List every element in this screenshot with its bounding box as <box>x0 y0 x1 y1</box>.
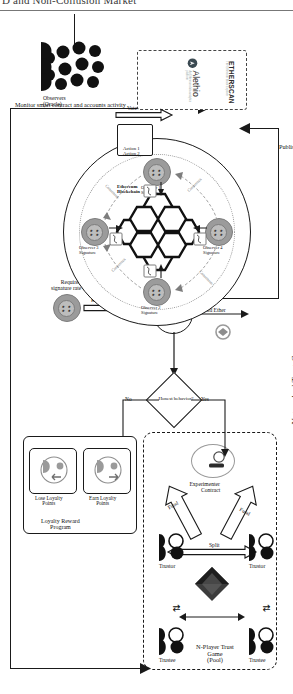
observers-oracle-label: Observers (Oracle) <box>43 96 66 108</box>
split-label: Split <box>209 543 220 549</box>
header-rule <box>0 10 293 11</box>
etherscan-logo-group: ETHERSCAN The Ethereum Block Explorer <box>219 58 241 102</box>
trustor-top-person <box>249 532 275 562</box>
action-line2: Action 2 <box>123 151 140 156</box>
judge-to-decision-arrow <box>170 332 178 376</box>
observer-1-arrow <box>157 182 165 196</box>
svg-text:★★: ★★ <box>157 288 162 296</box>
publish-arrowhead <box>239 123 251 134</box>
trustee-top-person <box>249 626 275 656</box>
vote-arrow <box>115 108 173 122</box>
aletheio-name: Alethio <box>191 70 201 104</box>
experimenter-contract-line2: Contract <box>201 488 220 494</box>
ether-token-icon <box>215 324 231 340</box>
observer-2-label: Observer 2 Signature <box>141 306 160 315</box>
trustee-top-label: Trustee <box>249 658 266 664</box>
svg-text:★★: ★★ <box>95 228 100 236</box>
svg-text:★★: ★★ <box>61 304 66 312</box>
consensus-arc-top-left <box>165 168 221 224</box>
observer-3-line2: Signature <box>79 251 98 256</box>
ethereum-currency-icon <box>193 564 231 604</box>
loyalty-program-line2: Program <box>41 524 80 530</box>
trustee-bottom-person <box>159 626 185 656</box>
observer-3-label: Observer 3 Signature <box>79 246 98 255</box>
lose-loyalty-label: Lose Loyalty Points <box>35 496 63 507</box>
consensus-arc-bottom-right <box>97 240 153 296</box>
oracle-line2: (Oracle) <box>43 102 66 108</box>
oracle-to-monitor-line <box>74 14 75 44</box>
etherscan-tagline: The Ethereum Block Explorer <box>225 61 228 104</box>
publish-line-horizontal-top <box>278 128 279 298</box>
observer-2-arrow <box>157 264 165 278</box>
no-label: No <box>125 397 132 403</box>
figure-page: D and Non-Collusion Market Publish smart… <box>0 0 293 694</box>
vote-label: Vote <box>127 106 137 112</box>
trust-game-label-line1: N-Player Trust Game <box>196 643 234 657</box>
observer-3-arrow <box>109 224 123 232</box>
exchange-symbol-top: ⇅ <box>261 604 272 612</box>
publish-arrow-label: Publish smart contract transactions <box>279 144 293 151</box>
svg-text:★★: ★★ <box>157 168 162 176</box>
figure-rotation-wrapper: Publish smart contract transactions Moni… <box>0 12 293 694</box>
trustor-top-label: Trustor <box>249 564 265 570</box>
observer-4-arrow <box>193 224 207 232</box>
svg-text:★★: ★★ <box>219 228 224 236</box>
vote-actions-label: Action 1 Action 2 <box>123 146 140 156</box>
monitor-line-right-riser <box>10 668 143 669</box>
yes-label: Yes <box>201 397 209 403</box>
lose-loyalty-icon <box>39 456 69 484</box>
honest-behavior-label: Honest behavior? <box>157 396 195 401</box>
etherscan-name: ETHERSCAN <box>228 61 235 104</box>
earn-loyalty-label: Earn Loyalty Points <box>89 496 116 507</box>
aletheio-logo-group: Alethio An Ethereum data analytics platf… <box>181 58 205 104</box>
trustor-bottom-person <box>159 532 185 562</box>
architecture-diagram: Publish smart contract transactions Moni… <box>0 12 293 694</box>
yes-branch-arrow <box>191 399 235 457</box>
figure-caption: Networked Trust Game <box>289 340 293 425</box>
trustor-bottom-label: Trustor <box>159 564 175 570</box>
required-sig-line2: signature rate <box>51 286 81 292</box>
publish-line-drop-to-analytics <box>249 128 279 129</box>
monitor-arrow-label: Monitor smart contract and accounts acti… <box>15 102 126 109</box>
svg-text:★★: ★★ <box>213 228 218 236</box>
aletheio-tagline: An Ethereum data analytics platform <box>185 70 191 104</box>
lose-loyalty-line2: Points <box>35 501 63 506</box>
trustee-bottom-label: Trustee <box>159 658 176 664</box>
observer-2-line2: Signature <box>141 311 160 316</box>
loyalty-program-label: Loyalty Reward Program <box>41 518 80 531</box>
loyalty-program-line1: Loyalty Reward <box>41 518 80 524</box>
exchange-symbol-bottom: ⇅ <box>171 604 182 612</box>
observers-oracle-crowd <box>41 40 105 92</box>
svg-text:★★: ★★ <box>89 228 94 236</box>
earn-loyalty-line2: Points <box>89 501 116 506</box>
consensus-arc-bottom-left <box>97 168 153 224</box>
monitor-line-bottom <box>10 108 11 668</box>
signature-node: ★★ ★★ <box>53 294 81 322</box>
svg-text:★★: ★★ <box>67 304 72 312</box>
trust-game-box-label: N-Player Trust Game (Pool) <box>189 644 241 664</box>
aletheio-icon <box>187 58 200 68</box>
page-header-title: D and Non-Collusion Market <box>2 0 136 6</box>
trustee-exchange-arrow <box>179 612 245 622</box>
earn-loyalty-icon <box>93 456 123 484</box>
consensus-arc-top-right <box>165 240 221 296</box>
trust-game-label-line2: (Pool) <box>207 656 223 663</box>
